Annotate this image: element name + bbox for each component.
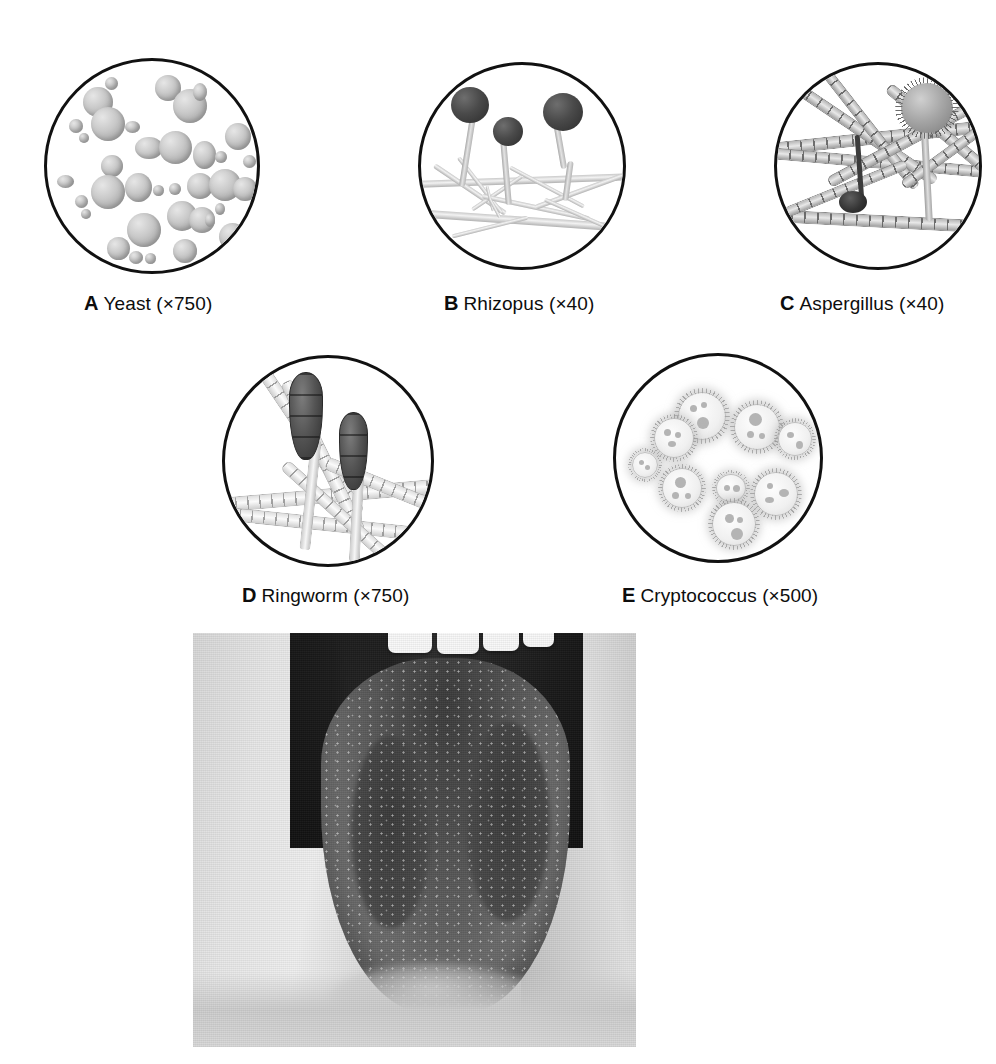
cell-inclusion: [664, 429, 671, 436]
panel-e-scope-circle: [613, 353, 823, 563]
septate-hypha: [777, 209, 979, 234]
panel-c-name: Aspergillus: [800, 293, 894, 314]
panel-a-caption: AYeast (×750): [84, 293, 212, 313]
yeast-cell: [159, 131, 192, 164]
cell-inclusion: [731, 528, 743, 540]
tongue: [321, 658, 569, 1014]
cell-inclusion: [725, 514, 734, 523]
cell-inclusion: [796, 441, 803, 449]
sporangium: [451, 87, 489, 123]
cell-inclusion: [779, 489, 789, 497]
lower-lip: [193, 972, 636, 1047]
yeast-cell: [169, 183, 181, 195]
panel-c-tag: C: [780, 292, 795, 314]
yeast-cell: [215, 151, 227, 163]
yeast-cell: [145, 253, 156, 264]
conidial-head: [901, 83, 953, 133]
yeast-cell: [193, 83, 207, 101]
panel-b-scope-circle: [418, 62, 626, 270]
panel-c-field: [777, 65, 979, 267]
cell-inclusion: [765, 497, 774, 503]
panel-e-tag: E: [622, 584, 635, 606]
panel-b-caption: BRhizopus (×40): [444, 293, 594, 313]
panel-b-name: Rhizopus: [464, 293, 544, 314]
cell-inclusion: [645, 465, 650, 470]
yeast-cell: [233, 177, 257, 201]
panel-a-scope-circle: [44, 58, 260, 274]
yeast-cell: [153, 185, 164, 196]
yeast-cell: [125, 173, 152, 202]
panel-b-tag: B: [444, 292, 459, 314]
panel-b-magnification: (×40): [549, 293, 594, 314]
yeast-cell: [81, 209, 91, 219]
cell-inclusion: [747, 431, 754, 438]
yeast-cell: [225, 123, 251, 150]
panel-c-scope-circle: [774, 62, 982, 270]
incisor-tooth: [483, 633, 518, 651]
panel-a-field: [47, 61, 257, 271]
cell-inclusion: [701, 402, 707, 408]
encapsulated-yeast-cell: [662, 468, 702, 508]
cell-inclusion: [639, 460, 644, 465]
panel-e-field: [616, 356, 820, 560]
yeast-cell: [243, 155, 256, 168]
panel-d-field: [225, 358, 431, 564]
incisor-tooth: [388, 633, 432, 653]
panel-e-name: Cryptococcus: [640, 585, 756, 606]
tongue-white-patches: [321, 658, 569, 1014]
cell-inclusion: [675, 477, 686, 488]
yeast-cell: [193, 141, 216, 169]
cell-inclusion: [675, 432, 681, 438]
encapsulated-yeast-cell: [754, 472, 798, 516]
cell-inclusion: [733, 485, 740, 492]
panel-e-caption: ECryptococcus (×500): [622, 585, 818, 605]
encapsulated-yeast-cell: [734, 404, 780, 450]
encapsulated-yeast-cell: [632, 452, 658, 478]
cell-inclusion: [672, 492, 679, 499]
yeast-cell: [105, 77, 118, 90]
encapsulated-yeast-cell: [712, 502, 756, 546]
panel-c-caption: CAspergillus (×40): [780, 293, 944, 313]
panel-a-magnification: (×750): [156, 293, 212, 314]
yeast-cell: [219, 223, 246, 250]
clinical-photograph-oral-cavity: [193, 633, 636, 1047]
panel-d-name: Ringworm: [262, 585, 348, 606]
cell-inclusion: [697, 417, 709, 429]
cell-inclusion: [690, 405, 697, 412]
incisor-tooth: [437, 633, 479, 654]
yeast-cell: [173, 239, 197, 263]
cell-inclusion: [787, 432, 794, 438]
panel-a-tag: A: [84, 292, 99, 314]
cell-inclusion: [759, 433, 765, 439]
dark-conidium: [839, 191, 867, 213]
panel-b-field: [421, 65, 623, 267]
incisor-tooth: [523, 633, 554, 647]
cell-inclusion: [668, 441, 676, 447]
sporangiophore: [500, 139, 512, 205]
yeast-cell: [129, 251, 143, 264]
yeast-cell: [127, 213, 161, 247]
cell-inclusion: [767, 483, 773, 489]
panel-e-magnification: (×500): [762, 585, 818, 606]
panel-d-scope-circle: [222, 355, 434, 567]
encapsulated-yeast-cell: [654, 418, 694, 458]
yeast-cell: [205, 213, 215, 227]
yeast-cell: [215, 203, 225, 215]
sporangium: [493, 117, 523, 146]
cell-inclusion: [749, 413, 762, 426]
panel-d-caption: DRingworm (×750): [242, 585, 409, 605]
encapsulated-yeast-cell: [778, 422, 812, 456]
yeast-cell: [91, 175, 125, 209]
panel-a-name: Yeast: [104, 293, 151, 314]
yeast-cell: [69, 119, 83, 133]
yeast-cell: [75, 195, 88, 208]
panel-d-magnification: (×750): [353, 585, 409, 606]
panel-c-magnification: (×40): [899, 293, 944, 314]
yeast-cell: [107, 237, 130, 260]
yeast-cell: [57, 175, 74, 188]
yeast-cell: [91, 107, 125, 141]
panel-d-tag: D: [242, 584, 257, 606]
cell-inclusion: [737, 517, 743, 523]
sporangium: [543, 93, 583, 131]
yeast-cell: [125, 121, 140, 133]
